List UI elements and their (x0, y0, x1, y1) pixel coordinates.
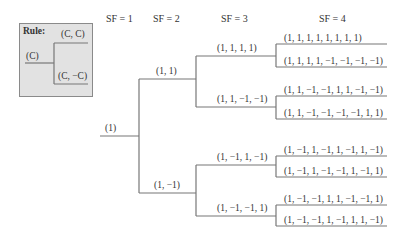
code-sf4-4: (1, 1, −1, −1, −1, −1, 1, 1) (284, 108, 383, 118)
header-sf1: SF = 1 (106, 13, 133, 24)
header-sf2: SF = 2 (153, 13, 180, 24)
code-sf3-2: (1, 1, −1, −1) (217, 94, 267, 104)
code-sf4-2: (1, 1, 1, 1, −1, −1, −1, −1) (284, 56, 383, 66)
header-sf4: SF = 4 (319, 13, 346, 24)
code-sf4-8: (1, −1, −1, 1, −1, 1, 1, −1) (284, 215, 383, 225)
code-sf4-1: (1, 1, 1, 1, 1, 1, 1, 1) (284, 33, 362, 43)
code-sf4-6: (1, −1, 1, −1, −1, 1, −1, 1) (284, 166, 383, 176)
header-sf3: SF = 3 (221, 13, 248, 24)
code-sf4-5: (1, −1, 1, −1, 1, −1, 1, −1) (284, 145, 383, 155)
code-sf2-1: (1, 1) (156, 66, 177, 76)
rule-child-bottom: (C, −C) (58, 71, 87, 81)
code-sf1: (1) (105, 123, 116, 133)
rule-title: Rule: (23, 26, 45, 36)
code-sf4-7: (1, −1, −1, 1, 1, −1, −1, 1) (284, 194, 383, 204)
rule-child-top: (C, C) (61, 29, 85, 39)
rule-parent: (C) (26, 51, 39, 61)
code-sf4-3: (1, 1, −1, −1, 1, 1, −1, −1) (284, 85, 383, 95)
code-sf3-4: (1, −1, −1, 1) (217, 203, 267, 213)
code-sf2-2: (1, −1) (154, 180, 180, 190)
code-sf3-3: (1, −1, 1, −1) (217, 152, 267, 162)
code-sf3-1: (1, 1, 1, 1) (217, 43, 257, 53)
